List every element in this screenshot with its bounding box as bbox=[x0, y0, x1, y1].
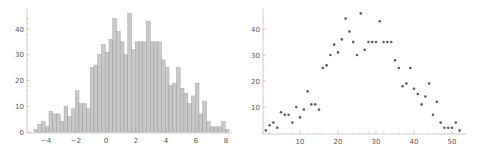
histogram-bar bbox=[60, 122, 64, 132]
scatter-point bbox=[344, 17, 347, 20]
histogram-bar bbox=[90, 68, 94, 132]
scatter-point bbox=[458, 129, 461, 132]
histogram-bar bbox=[154, 42, 158, 132]
scatter-point bbox=[455, 121, 458, 124]
histogram-bar bbox=[147, 21, 151, 132]
scatter-point bbox=[276, 127, 279, 130]
scatter-point bbox=[310, 103, 313, 106]
scatter-point bbox=[352, 41, 355, 44]
histogram-bar bbox=[117, 32, 121, 132]
scatter-chart: 102030401020304050 bbox=[242, 0, 484, 156]
histogram-bar bbox=[162, 60, 166, 132]
y-tick-label: 10 bbox=[251, 104, 260, 112]
histogram-bar bbox=[173, 83, 177, 132]
histogram-bar bbox=[177, 68, 181, 132]
histogram-bar bbox=[128, 14, 132, 132]
histogram-bar bbox=[165, 68, 169, 132]
x-tick-label: 50 bbox=[448, 138, 457, 146]
histogram-bar bbox=[79, 104, 83, 132]
scatter-point bbox=[401, 85, 404, 88]
y-tick-label: 0 bbox=[20, 129, 24, 137]
histogram-bar bbox=[135, 42, 139, 132]
histogram-bar bbox=[132, 50, 136, 132]
x-tick-label: −4 bbox=[41, 137, 52, 145]
x-tick-label: 20 bbox=[334, 138, 343, 146]
scatter-point bbox=[333, 43, 336, 46]
histogram-bar bbox=[184, 93, 188, 132]
histogram-bar bbox=[87, 109, 91, 132]
x-tick-label: 40 bbox=[410, 138, 419, 146]
scatter-point bbox=[360, 12, 363, 15]
x-tick-label: 30 bbox=[372, 138, 381, 146]
x-tick-label: 0 bbox=[104, 137, 108, 145]
scatter-point bbox=[413, 88, 416, 91]
x-tick-label: 6 bbox=[194, 137, 199, 145]
scatter-point bbox=[382, 41, 385, 44]
histogram-bar bbox=[102, 44, 106, 132]
scatter-point bbox=[314, 103, 317, 106]
x-tick-label: 2 bbox=[134, 137, 138, 145]
histogram-bar bbox=[113, 19, 117, 132]
histogram-bar bbox=[203, 101, 207, 132]
y-tick-label: 40 bbox=[251, 26, 260, 34]
y-tick-label: 10 bbox=[15, 103, 24, 111]
scatter-point bbox=[386, 41, 389, 44]
x-tick-label: 10 bbox=[296, 138, 305, 146]
histogram-bar bbox=[94, 65, 98, 132]
scatter-point bbox=[424, 95, 427, 98]
histogram-bar bbox=[124, 55, 128, 132]
scatter-point bbox=[318, 108, 321, 111]
histogram-bar bbox=[199, 114, 203, 132]
scatter-point bbox=[447, 127, 450, 130]
y-tick-label: 20 bbox=[15, 77, 24, 85]
histogram-bar bbox=[49, 111, 53, 132]
scatter-point bbox=[272, 121, 275, 124]
histogram-bar bbox=[68, 117, 72, 132]
scatter-point bbox=[268, 124, 271, 127]
scatter-point bbox=[287, 114, 290, 117]
scatter-point bbox=[428, 82, 431, 85]
histogram-bar bbox=[42, 122, 46, 132]
scatter-point bbox=[375, 41, 378, 44]
histogram-bar bbox=[150, 42, 154, 132]
scatter-point bbox=[322, 67, 325, 70]
scatter-point bbox=[303, 108, 306, 111]
scatter-point bbox=[348, 30, 351, 33]
histogram-bar bbox=[169, 86, 173, 132]
figure: 010203040−4−202468 102030401020304050 bbox=[0, 0, 484, 156]
histogram-bar bbox=[98, 55, 102, 132]
histogram-bar bbox=[34, 129, 38, 132]
scatter-point bbox=[325, 64, 328, 67]
histogram-chart: 010203040−4−202468 bbox=[0, 0, 242, 156]
scatter-point bbox=[398, 67, 401, 70]
scatter-point bbox=[390, 41, 393, 44]
x-tick-label: −2 bbox=[71, 137, 81, 145]
x-tick-label: 8 bbox=[224, 137, 228, 145]
histogram-bar bbox=[53, 114, 57, 132]
scatter-point bbox=[451, 127, 454, 130]
y-tick-label: 30 bbox=[251, 52, 260, 60]
scatter-point bbox=[299, 116, 302, 119]
scatter-point bbox=[265, 129, 268, 132]
scatter-point bbox=[405, 82, 408, 85]
histogram-bar bbox=[120, 42, 124, 132]
scatter-point bbox=[367, 41, 370, 44]
histogram-bar bbox=[75, 91, 79, 132]
histogram-bar bbox=[218, 127, 222, 132]
scatter-point bbox=[291, 121, 294, 124]
histogram-bar bbox=[188, 104, 192, 132]
scatter-point bbox=[341, 38, 344, 41]
histogram-bar bbox=[72, 109, 76, 132]
y-tick-label: 30 bbox=[15, 51, 24, 59]
y-tick-label: 20 bbox=[251, 78, 260, 86]
histogram-bar bbox=[192, 96, 196, 132]
scatter-point bbox=[436, 101, 439, 104]
scatter-point bbox=[337, 51, 340, 54]
histogram-bar bbox=[158, 42, 162, 132]
scatter-point bbox=[284, 114, 287, 117]
histogram-bar bbox=[64, 106, 68, 132]
scatter-point bbox=[306, 90, 309, 93]
histogram-bar bbox=[57, 114, 61, 132]
scatter-point bbox=[420, 103, 423, 106]
histogram-bar bbox=[139, 42, 143, 132]
